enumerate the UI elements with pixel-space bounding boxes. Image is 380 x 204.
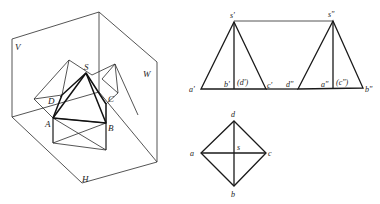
top-view: d a s c b (190, 110, 272, 199)
plane-h-label: H (81, 174, 89, 184)
a-prime-label: a' (189, 85, 195, 94)
d-double-prime-label: d" (286, 80, 294, 89)
plane-v-label: V (15, 42, 22, 52)
b-label: b (231, 190, 235, 199)
b-prime-label: b' (224, 80, 230, 89)
three-view-projection-diagram: V W H S A B C D s' a' b' (d') c' s" d" a… (0, 0, 380, 204)
c-label: c (268, 149, 272, 158)
front-view: s' a' b' (d') c' (189, 11, 273, 94)
a-double-prime-label: a" (321, 80, 329, 89)
c-double-prime-hidden-label: (c") (336, 78, 349, 87)
s-double-prime-label: s" (328, 10, 335, 19)
side-view-triangle (298, 21, 363, 89)
w-plane-outline (99, 12, 157, 162)
pictorial-view: V W H S A B C D (12, 12, 157, 184)
point-c-label: C (108, 94, 115, 104)
a-label: a (190, 149, 194, 158)
projection-planes (12, 12, 157, 183)
s-prime-label: s' (230, 11, 235, 20)
d-label: d (231, 110, 236, 119)
side-view: s" d" a" (c") b" (286, 10, 373, 94)
s-label: s (237, 143, 240, 152)
b-double-prime-label: b" (365, 85, 373, 94)
d-prime-hidden-label: (d') (237, 78, 248, 87)
plane-w-label: W (143, 69, 152, 79)
point-a-label: A (44, 119, 51, 129)
point-b-label: B (108, 123, 114, 133)
point-d-label: D (47, 96, 55, 106)
point-s-label: S (84, 62, 89, 72)
